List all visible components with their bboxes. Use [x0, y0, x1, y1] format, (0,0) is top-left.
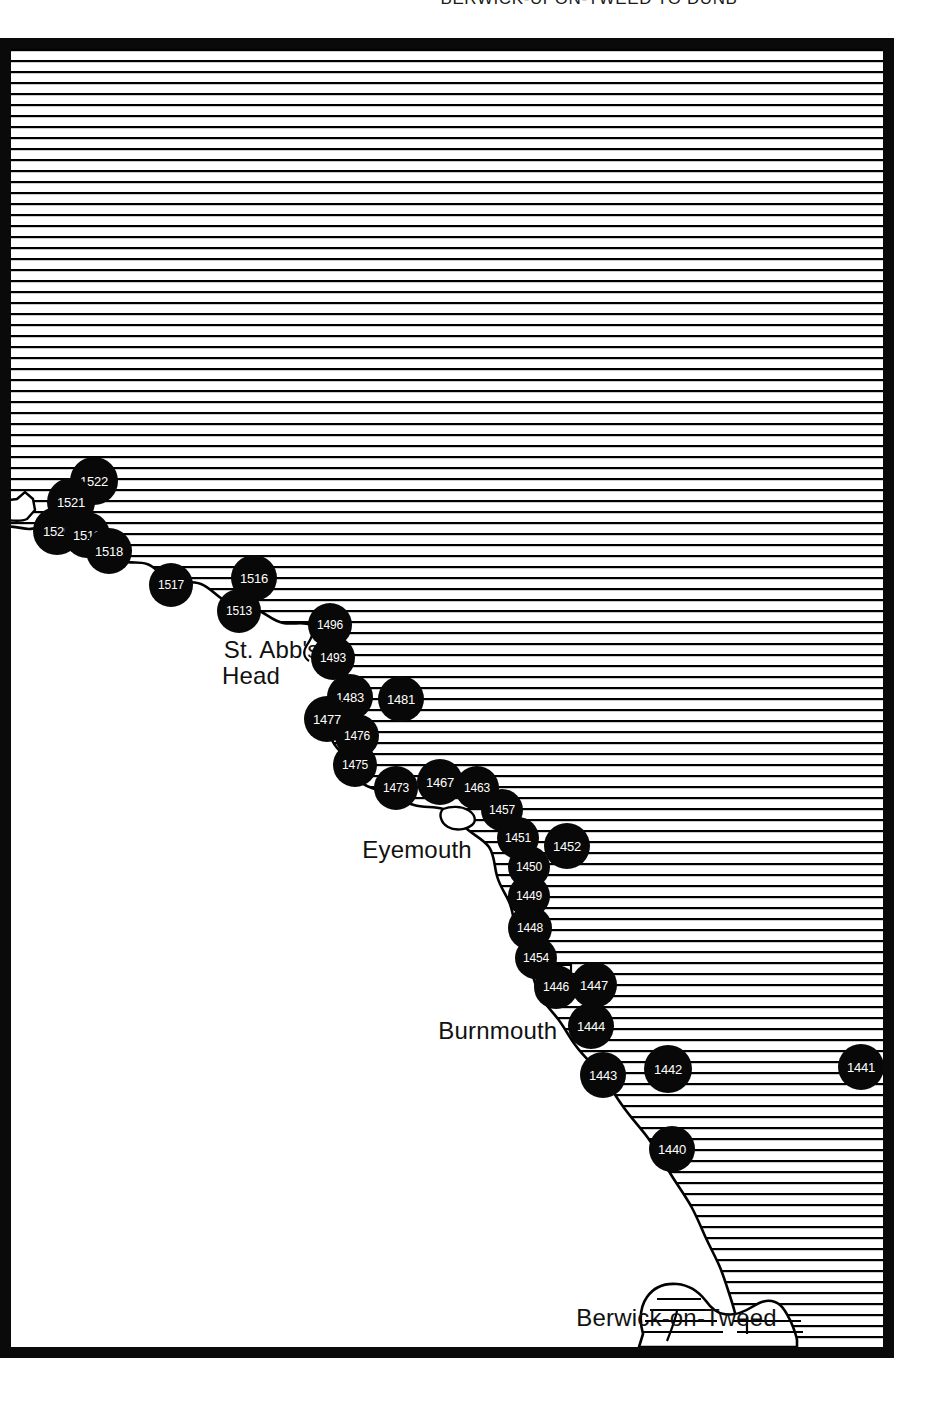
site-marker-label: 1476 [344, 729, 370, 743]
site-marker-label: 1457 [489, 803, 515, 817]
site-marker-1447[interactable]: 1447 [571, 962, 617, 1008]
site-marker-label: 1475 [342, 758, 368, 772]
place-label-text: Eyemouth [362, 836, 472, 863]
site-marker-label: 1440 [658, 1142, 686, 1157]
place-label-burnmouth: Burnmouth [397, 992, 557, 1070]
site-marker-label: 1517 [158, 578, 184, 592]
site-marker-label: 1454 [523, 951, 549, 965]
site-marker-1513[interactable]: 1513 [217, 589, 261, 633]
running-head-text: BERWICK-UPON-TWEED TO DUNB [190, 0, 737, 9]
site-marker-label: 1446 [543, 980, 569, 994]
site-marker-label: 1449 [516, 889, 542, 903]
site-marker-1444[interactable]: 1444 [568, 1003, 614, 1049]
coastline-map-graphic [11, 49, 883, 1347]
site-marker-label: 1444 [577, 1019, 605, 1034]
site-marker-1475[interactable]: 1475 [333, 743, 377, 787]
site-marker-label: 1443 [589, 1068, 617, 1083]
site-marker-1452[interactable]: 1452 [544, 823, 590, 869]
site-marker-label: 1447 [580, 978, 608, 993]
site-marker-label: 1463 [464, 781, 490, 795]
site-marker-label: 1452 [553, 839, 581, 854]
site-marker-label: 1442 [654, 1062, 682, 1077]
site-marker-label: 1448 [517, 921, 543, 935]
site-marker-label: 1496 [317, 618, 343, 632]
site-marker-1440[interactable]: 1440 [649, 1126, 695, 1172]
place-label-text: St. Abb'sHead [222, 636, 320, 689]
map-canvas: St. Abb'sHead Eyemouth Burnmouth Berwick… [11, 49, 883, 1347]
site-marker-1441[interactable]: 1441 [838, 1044, 883, 1090]
running-head: BERWICK-UPON-TWEED TO DUNB [0, 0, 928, 9]
site-marker-label: 1513 [226, 604, 252, 618]
site-marker-label: 1518 [95, 544, 123, 559]
site-marker-1518[interactable]: 1518 [86, 528, 132, 574]
site-marker-1442[interactable]: 1442 [644, 1045, 692, 1093]
site-marker-1517[interactable]: 1517 [149, 563, 193, 607]
site-marker-label: 1493 [320, 651, 346, 665]
map-figure: St. Abb'sHead Eyemouth Burnmouth Berwick… [0, 38, 894, 1358]
place-label-eyemouth: Eyemouth [321, 811, 471, 889]
place-label-text: Berwick-on-Tweed [576, 1304, 777, 1331]
site-marker-label: 1481 [387, 692, 415, 707]
site-marker-1443[interactable]: 1443 [580, 1052, 626, 1098]
site-marker-label: 1516 [240, 571, 268, 586]
site-marker-1473[interactable]: 1473 [374, 766, 418, 810]
site-marker-label: 1451 [505, 831, 531, 845]
site-marker-label: 1473 [383, 781, 409, 795]
site-marker-1481[interactable]: 1481 [378, 676, 424, 722]
site-marker-label: 1450 [516, 860, 542, 874]
place-label-text: Burnmouth [438, 1017, 557, 1044]
place-label-berwick-on-tweed: Berwick-on-Tweed [535, 1279, 775, 1347]
site-marker-label: 1467 [426, 775, 454, 790]
site-marker-label: 1441 [847, 1060, 875, 1075]
